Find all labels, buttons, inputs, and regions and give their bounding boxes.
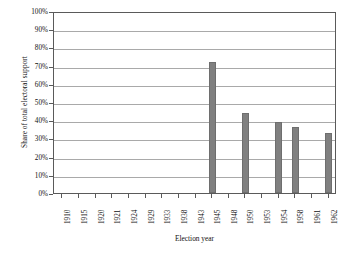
y-axis-tick-label: 100% xyxy=(18,8,48,16)
x-axis-tick-labels: 1910191519201921192419291933193819431945… xyxy=(53,198,336,228)
y-axis-tick-label: 50% xyxy=(18,99,48,107)
bar xyxy=(242,113,249,193)
x-axis-tick-label: 1948 xyxy=(231,210,239,224)
x-axis-tick-label: 1943 xyxy=(198,210,206,224)
x-axis-tick-label: 1938 xyxy=(181,210,189,224)
bar xyxy=(275,122,282,193)
bar xyxy=(292,127,299,193)
y-axis-tick-label: 90% xyxy=(18,26,48,34)
bars-layer xyxy=(54,13,335,193)
y-axis-tick-label: 0% xyxy=(18,190,48,198)
y-axis-tick-label: 80% xyxy=(18,44,48,52)
x-axis-tick-label: 1961 xyxy=(314,210,322,224)
x-axis-tick-label: 1953 xyxy=(264,210,272,224)
y-axis-tick-label: 60% xyxy=(18,81,48,89)
x-axis-tick-label: 1921 xyxy=(114,210,122,224)
x-axis-tick-label: 1915 xyxy=(81,210,89,224)
x-axis-tick-label: 1910 xyxy=(64,210,72,224)
x-axis-tick-label: 1920 xyxy=(98,210,106,224)
x-axis-tick-label: 1933 xyxy=(164,210,172,224)
bar xyxy=(325,133,332,193)
x-axis-tick-label: 1950 xyxy=(247,210,255,224)
x-axis-tick-label: 1954 xyxy=(281,210,289,224)
y-axis-tick-labels: 0%10%20%30%40%50%60%70%80%90%100% xyxy=(18,12,48,194)
plot-area xyxy=(53,12,336,194)
x-axis-tick-label: 1929 xyxy=(148,210,156,224)
x-axis-tick-label: 1945 xyxy=(214,210,222,224)
x-axis-tick-label: 1924 xyxy=(131,210,139,224)
x-axis-tick-label: 1958 xyxy=(297,210,305,224)
x-axis-title: Election year xyxy=(53,234,336,243)
bar xyxy=(209,62,216,193)
y-axis-tick-label: 20% xyxy=(18,154,48,162)
x-axis-tick-label: 1962 xyxy=(331,210,339,224)
bar-chart: Share of total electoral support 0%10%20… xyxy=(0,0,350,253)
y-axis-tick-label: 70% xyxy=(18,63,48,71)
y-axis-tick-label: 10% xyxy=(18,172,48,180)
y-axis-tick-label: 30% xyxy=(18,135,48,143)
y-axis-tick-label: 40% xyxy=(18,117,48,125)
